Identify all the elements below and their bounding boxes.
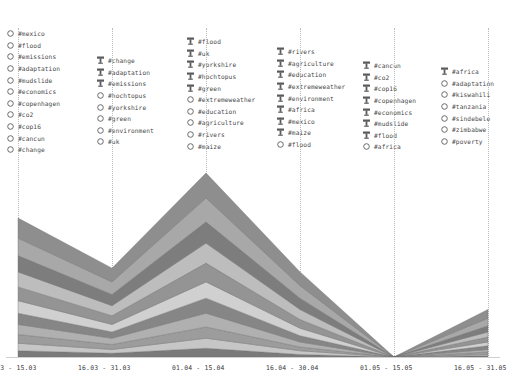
legend-item-label: #flood (18, 42, 41, 49)
legend-item-label: #education (288, 71, 326, 78)
legend-item[interactable]: #economics (6, 86, 60, 98)
legend-item[interactable]: #education (186, 106, 255, 118)
circle-marker-icon (440, 90, 449, 100)
legend-item[interactable]: #africa (276, 104, 345, 116)
legend-column-1: #mexico#flood#emissions#adaptation#mudsl… (6, 28, 60, 156)
legend-column-2: #change#adaptation#emissions#hochtopus#y… (96, 55, 154, 148)
legend-item[interactable]: #hochtopus (96, 90, 154, 102)
legend-item[interactable]: #environment (96, 125, 154, 137)
legend-item-label: #change (18, 146, 45, 153)
legend-item[interactable]: #green (96, 113, 154, 125)
circle-marker-icon (96, 91, 105, 101)
legend-item[interactable]: #flood (362, 130, 416, 142)
circle-marker-icon (96, 125, 105, 135)
pin-marker-icon (362, 72, 371, 82)
legend-item-label: #africa (374, 143, 401, 150)
circle-marker-icon (276, 140, 285, 150)
legend-item[interactable]: #co2 (362, 72, 416, 84)
legend-item[interactable]: #copenhagen (6, 98, 60, 110)
circle-marker-icon (6, 87, 15, 97)
legend-item[interactable]: #emissions (6, 51, 60, 63)
legend-item-label: #rivers (288, 48, 315, 55)
legend-column-6: #africa#adaptation#kiswahili#tanzania#si… (440, 66, 494, 147)
legend-item[interactable]: #flood (6, 40, 60, 52)
legend-item[interactable]: #change (6, 144, 60, 156)
legend-item[interactable]: #tanzania (440, 101, 494, 113)
pin-marker-icon (362, 96, 371, 106)
legend-item[interactable]: #agriculture (276, 58, 345, 70)
pin-marker-icon (440, 67, 449, 77)
legend-item[interactable]: #maize (276, 127, 345, 139)
area-chart-svg (0, 158, 506, 358)
legend-item[interactable]: #mexico (6, 28, 60, 40)
pin-marker-icon (362, 130, 371, 140)
legend-item[interactable]: #kiswahili (440, 89, 494, 101)
legend-item[interactable]: #economics (362, 106, 416, 118)
legend-item[interactable]: #cancun (362, 60, 416, 72)
legend-item[interactable]: #uk (186, 48, 255, 60)
legend-item[interactable]: #rivers (186, 129, 255, 141)
circle-marker-icon (440, 78, 449, 88)
legend-item[interactable]: #emissions (96, 78, 154, 90)
legend-item-label: #environment (108, 127, 154, 134)
legend-item[interactable]: #cop16 (362, 83, 416, 95)
pin-marker-icon (186, 72, 195, 82)
circle-marker-icon (440, 102, 449, 112)
legend-item-label: #emissions (18, 53, 56, 60)
legend-item-label: #adaptation (18, 65, 60, 72)
legend-item[interactable]: #extremeweather (276, 81, 345, 93)
legend-item[interactable]: #yorkshire (186, 59, 255, 71)
pin-marker-icon (276, 105, 285, 115)
legend-item[interactable]: #cancun (6, 132, 60, 144)
legend-item[interactable]: #uk (96, 136, 154, 148)
legend-item[interactable]: #yorkshire (96, 101, 154, 113)
pin-marker-icon (276, 47, 285, 57)
legend-item[interactable]: #education (276, 69, 345, 81)
legend-item[interactable]: #adaptation (6, 63, 60, 75)
pin-marker-icon (362, 107, 371, 117)
legend-item-label: #hochtopus (198, 73, 236, 80)
legend-item-label: #extremeweather (198, 96, 255, 103)
legend-item[interactable]: #agriculture (186, 117, 255, 129)
x-axis: 01.03 - 15.0316.03 - 31.0301.04 - 15.041… (0, 358, 506, 387)
legend-item-label: #green (198, 85, 221, 92)
legend-item[interactable]: #copenhagen (362, 95, 416, 107)
legend-item[interactable]: #change (96, 55, 154, 67)
legend-item[interactable]: #zimbabwe (440, 124, 494, 136)
legend-item[interactable]: #sindebele (440, 112, 494, 124)
legend-item[interactable]: #rivers (276, 46, 345, 58)
legend-item[interactable]: #maize (186, 140, 255, 152)
legend-item[interactable]: #cop16 (6, 121, 60, 133)
legend-item[interactable]: #flood (186, 36, 255, 48)
circle-marker-icon (6, 75, 15, 85)
circle-marker-icon (440, 113, 449, 123)
legend-item-label: #environment (288, 95, 334, 102)
legend-item[interactable]: #adaptation (440, 78, 494, 90)
legend-item[interactable]: #environment (276, 92, 345, 104)
legend-item[interactable]: #green (186, 82, 255, 94)
legend-item[interactable]: #mudslide (6, 74, 60, 86)
legend-item[interactable]: #adaptation (96, 67, 154, 79)
legend-item[interactable]: #africa (362, 141, 416, 153)
legend-item-label: #cancun (374, 62, 401, 69)
circle-marker-icon (6, 40, 15, 50)
legend-item[interactable]: #africa (440, 66, 494, 78)
pin-marker-icon (276, 82, 285, 92)
legend-item-label: #kiswahili (452, 91, 490, 98)
legend-item[interactable]: #mudslide (362, 118, 416, 130)
legend-item-label: #copenhagen (374, 97, 416, 104)
legend-item[interactable]: #hochtopus (186, 71, 255, 83)
legend: #mexico#flood#emissions#adaptation#mudsl… (0, 0, 506, 160)
circle-marker-icon (440, 136, 449, 146)
legend-item-label: #flood (288, 141, 311, 148)
legend-item-label: #co2 (374, 74, 389, 81)
legend-item[interactable]: #co2 (6, 109, 60, 121)
pin-marker-icon (362, 84, 371, 94)
legend-item-label: #africa (288, 106, 315, 113)
legend-item[interactable]: #flood (276, 139, 345, 151)
circle-marker-icon (186, 130, 195, 140)
legend-item[interactable]: #poverty (440, 136, 494, 148)
legend-item[interactable]: #mexico (276, 116, 345, 128)
legend-item[interactable]: #extremeweather (186, 94, 255, 106)
circle-marker-icon (6, 133, 15, 143)
